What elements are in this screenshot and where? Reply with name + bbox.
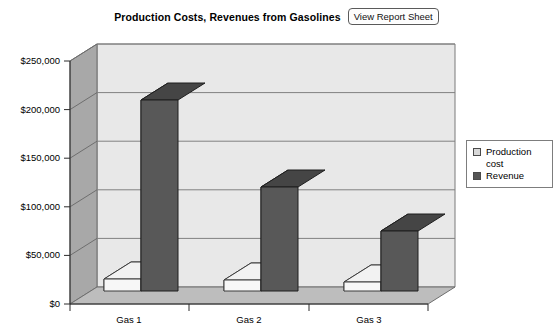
x-axis-label-gas-2: Gas 2 (204, 314, 294, 325)
x-axis-label-gas-1: Gas 1 (84, 314, 174, 325)
legend-swatch-revenue-icon (473, 172, 481, 180)
legend: Production cost Revenue (466, 140, 553, 188)
x-axis-label-gas-3: Gas 3 (324, 314, 414, 325)
legend-item-production-cost[interactable]: Production cost (473, 146, 545, 169)
y-axis (64, 61, 70, 304)
y-axis-label-0: $0 (0, 298, 60, 309)
side-wall (70, 44, 97, 304)
y-axis-label-4: $200,000 (0, 104, 60, 115)
y-axis-label-1: $50,000 (0, 249, 60, 260)
legend-swatch-production-cost-icon (473, 148, 481, 156)
y-axis-label-2: $100,000 (0, 201, 60, 212)
legend-label-revenue: Revenue (486, 170, 524, 182)
y-axis-label-3: $150,000 (0, 152, 60, 163)
legend-item-revenue[interactable]: Revenue (473, 170, 545, 182)
x-axis (70, 304, 428, 311)
y-axis-label-5: $250,000 (0, 55, 60, 66)
legend-label-production-cost: Production cost (486, 146, 545, 169)
chart-container: Production Costs, Revenues from Gasoline… (0, 0, 553, 336)
